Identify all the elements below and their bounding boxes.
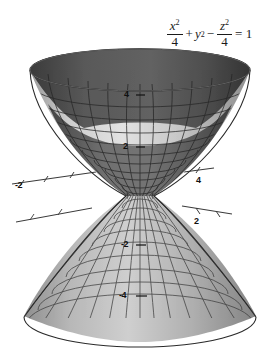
tick-label-right-lower: 2 [194, 216, 199, 226]
hyperboloid-surface [0, 0, 280, 354]
tick-label-z-neg4: -4 [119, 290, 126, 300]
tick-label-left-upper: -2 [15, 180, 22, 190]
tick-label-z-4: 4 [124, 89, 129, 99]
figure-canvas: x2 4 + y2 − z2 4 = 1 [0, 0, 280, 354]
tick-label-right-upper: 4 [196, 175, 201, 185]
tick-label-z-2: 2 [123, 141, 128, 151]
tick-label-z-neg2: -2 [121, 239, 128, 249]
